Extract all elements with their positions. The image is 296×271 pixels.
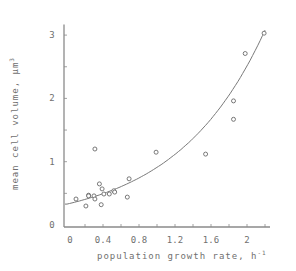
data-point	[99, 203, 103, 207]
x-tick-label: 0.4	[95, 235, 111, 245]
data-point	[232, 99, 236, 103]
data-point	[93, 147, 97, 151]
x-tick-label: 1.6	[203, 235, 219, 245]
data-point	[232, 117, 236, 121]
x-tick-label: 0	[67, 235, 72, 245]
x-tick-label: 2	[244, 235, 249, 245]
data-point	[125, 195, 129, 199]
data-point	[74, 197, 78, 201]
x-tick-label: 0.8	[131, 235, 147, 245]
data-point	[204, 152, 208, 156]
data-point	[107, 192, 111, 196]
x-axis-title: population growth rate, h-1	[97, 249, 267, 261]
data-point	[93, 197, 97, 201]
data-point	[113, 190, 117, 194]
data-point	[154, 150, 158, 154]
data-point	[243, 52, 247, 56]
scatter-chart: 00.40.81.21.620123 population growth rat…	[0, 0, 296, 271]
fit-curve	[65, 30, 265, 204]
y-tick-label: 1	[49, 157, 54, 167]
data-point	[84, 204, 88, 208]
data-point	[262, 31, 266, 35]
y-axis-title: mean cell volume, µm3	[8, 57, 20, 190]
y-tick-label: 0	[49, 220, 54, 230]
data-point	[127, 177, 131, 181]
data-point	[102, 192, 106, 196]
data-point	[100, 187, 104, 191]
data-point	[87, 194, 91, 198]
tick-labels: 00.40.81.21.620123	[49, 30, 249, 245]
data-points	[74, 31, 266, 208]
x-tick-label: 1.2	[167, 235, 183, 245]
fit-curve-path	[65, 30, 265, 204]
data-point	[97, 182, 101, 186]
y-tick-label: 3	[49, 30, 54, 40]
y-tick-label: 2	[49, 93, 54, 103]
